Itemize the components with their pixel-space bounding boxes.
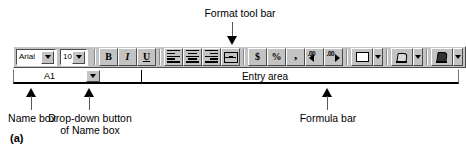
formula-bar: A1 Entry area xyxy=(13,69,459,84)
italic-button[interactable]: I xyxy=(118,48,137,66)
increase-decimal-icon: .00 xyxy=(308,51,322,63)
toolbar-separator xyxy=(94,49,96,65)
callout-formula-bar-label: Formula bar xyxy=(300,112,357,124)
name-box-value: A1 xyxy=(44,71,55,81)
callout-formula-bar: Formula bar xyxy=(288,112,368,124)
fill-color-dropdown-button[interactable] xyxy=(413,48,423,66)
merge-and-center-button[interactable] xyxy=(221,48,240,66)
font-color-dropdown-button[interactable] xyxy=(453,48,463,66)
format-toolbar: Arial 10 B I U xyxy=(13,46,466,68)
formula-bar-buttons-area xyxy=(100,70,142,82)
chevron-down-icon xyxy=(415,55,421,59)
leader-line-dropdown-button xyxy=(89,96,90,110)
comma-icon: , xyxy=(294,52,297,62)
callout-dropdown-button-label-line2: of Name box xyxy=(60,124,120,136)
borders-icon xyxy=(356,52,369,62)
toolbar-separator xyxy=(386,49,388,65)
comma-style-button[interactable]: , xyxy=(286,48,305,66)
increase-decimal-button[interactable]: .00 xyxy=(305,48,324,66)
decrease-decimal-icon: .00 xyxy=(327,51,341,63)
currency-icon: $ xyxy=(255,52,260,62)
fill-color-icon xyxy=(396,52,408,63)
chevron-down-icon xyxy=(76,55,82,59)
underline-button[interactable]: U xyxy=(137,48,156,66)
font-name-dropdown-button[interactable] xyxy=(41,51,54,64)
font-name-value: Arial xyxy=(17,50,41,64)
percent-icon: % xyxy=(272,52,282,62)
toolbar-separator xyxy=(159,49,161,65)
chevron-down-icon xyxy=(375,55,381,59)
align-right-button[interactable] xyxy=(202,48,221,66)
font-name-combobox[interactable]: Arial xyxy=(16,49,56,65)
currency-style-button[interactable]: $ xyxy=(248,48,267,66)
entry-area-label: Entry area xyxy=(242,71,288,82)
align-left-button[interactable] xyxy=(164,48,183,66)
callout-format-tool-bar: Format tool bar xyxy=(185,7,295,19)
align-center-button[interactable] xyxy=(183,48,202,66)
align-right-icon xyxy=(205,50,218,65)
borders-button[interactable] xyxy=(351,48,373,66)
leader-line-format-tool-bar xyxy=(232,22,233,37)
font-color-button[interactable] xyxy=(431,48,453,66)
toolbar-separator xyxy=(426,49,428,65)
italic-icon: I xyxy=(126,52,130,62)
entry-area[interactable]: Entry area xyxy=(142,70,458,82)
toolbar-separator xyxy=(346,49,348,65)
name-box[interactable]: A1 xyxy=(14,70,86,82)
bold-icon: B xyxy=(105,52,112,62)
chevron-down-icon xyxy=(455,55,461,59)
decrease-decimal-button[interactable]: .00 xyxy=(324,48,343,66)
borders-dropdown-button[interactable] xyxy=(373,48,383,66)
callout-dropdown-button: Drop-down button of Name box xyxy=(42,112,138,136)
chevron-down-icon xyxy=(90,74,96,78)
align-center-icon xyxy=(186,50,199,65)
fill-color-button[interactable] xyxy=(391,48,413,66)
toolbar-separator xyxy=(243,49,245,65)
font-size-combobox[interactable]: 10 xyxy=(60,49,87,65)
merge-center-icon xyxy=(224,52,238,63)
arrowhead-format-tool-bar xyxy=(227,36,237,45)
leader-line-name-box xyxy=(31,96,32,110)
align-left-icon xyxy=(167,50,180,65)
callout-dropdown-button-label-line1: Drop-down button xyxy=(48,112,131,124)
name-box-dropdown-button[interactable] xyxy=(86,70,100,82)
font-color-icon xyxy=(436,52,448,63)
percent-style-button[interactable]: % xyxy=(267,48,286,66)
underline-icon: U xyxy=(143,52,150,62)
figure-label: (a) xyxy=(10,132,23,144)
font-size-value: 10 xyxy=(61,50,72,64)
callout-format-tool-bar-label: Format tool bar xyxy=(204,7,275,19)
leader-line-formula-bar xyxy=(327,96,328,110)
font-size-dropdown-button[interactable] xyxy=(72,51,85,64)
bold-button[interactable]: B xyxy=(99,48,118,66)
chevron-down-icon xyxy=(45,55,51,59)
